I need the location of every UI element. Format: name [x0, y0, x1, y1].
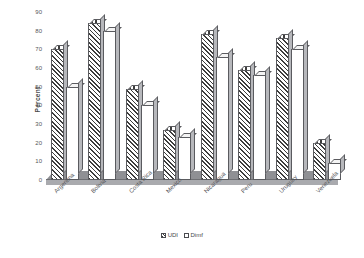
bar-side-face	[228, 48, 233, 174]
bar-group	[121, 12, 159, 180]
bar-udi-venezuela	[313, 143, 326, 180]
y-axis-tick-label: 10	[22, 158, 42, 164]
bar-udi-argentina	[51, 49, 64, 180]
chart-legend: UDIDimf	[0, 232, 364, 238]
bar-dimf-argentina	[66, 87, 79, 180]
bar	[88, 23, 101, 180]
bar-group	[271, 12, 309, 180]
legend-swatch	[184, 233, 189, 238]
bar	[178, 137, 191, 180]
bar-side-face	[265, 66, 270, 174]
y-axis-tick-label: 0	[22, 177, 42, 183]
y-axis-tick-label: 90	[22, 9, 42, 15]
bar-dimf-uruguay	[291, 49, 304, 180]
bar	[238, 70, 251, 180]
legend-swatch	[161, 233, 166, 238]
bar-udi-costa-rica	[126, 89, 139, 180]
y-axis-tick-label: 80	[22, 28, 42, 34]
bar	[126, 89, 139, 180]
bar-dimf-peru	[253, 75, 266, 180]
bar	[253, 75, 266, 180]
bar	[103, 31, 116, 180]
bar-side-face	[78, 78, 83, 174]
bar-side-face	[303, 40, 308, 174]
bar-udi-peru	[238, 70, 251, 180]
bar	[66, 87, 79, 180]
y-axis-tick-label: 40	[22, 102, 42, 108]
legend-label: UDI	[168, 232, 178, 238]
x-axis-labels: ArgentinaBoliviaCosta RicaMexicoNicaragu…	[46, 190, 346, 234]
bar-side-face	[190, 128, 195, 174]
bar-side-face	[340, 154, 345, 174]
bar-udi-nicaragua	[201, 34, 214, 180]
legend-item-udi: UDI	[161, 232, 178, 238]
bar-dimf-bolivia	[103, 31, 116, 180]
bar	[51, 49, 64, 180]
legend-label: Dimf	[191, 232, 203, 238]
y-axis-tick-label: 30	[22, 121, 42, 127]
bar-group	[159, 12, 197, 180]
bar-chart: Percent 9080706050403020100 ArgentinaBol…	[0, 0, 364, 258]
bar-group	[46, 12, 84, 180]
bar-group	[84, 12, 122, 180]
bar-dimf-nicaragua	[216, 57, 229, 180]
bar	[291, 49, 304, 180]
bar-dimf-mexico	[178, 137, 191, 180]
bar-group	[309, 12, 347, 180]
bar-groups	[46, 12, 346, 180]
bar	[163, 130, 176, 180]
bar-udi-uruguay	[276, 38, 289, 180]
bar	[313, 143, 326, 180]
bar-udi-bolivia	[88, 23, 101, 180]
bar	[201, 34, 214, 180]
bar	[276, 38, 289, 180]
bar-udi-mexico	[163, 130, 176, 180]
bar-side-face	[153, 96, 158, 174]
legend-item-dimf: Dimf	[184, 232, 203, 238]
bar-side-face	[115, 22, 120, 174]
bar	[216, 57, 229, 180]
bar-group	[196, 12, 234, 180]
y-axis-tick-label: 70	[22, 46, 42, 52]
y-axis-tick-label: 60	[22, 65, 42, 71]
y-axis-tick-label: 20	[22, 140, 42, 146]
bar-group	[234, 12, 272, 180]
y-axis-tick-label: 50	[22, 84, 42, 90]
plot-area	[46, 12, 346, 188]
